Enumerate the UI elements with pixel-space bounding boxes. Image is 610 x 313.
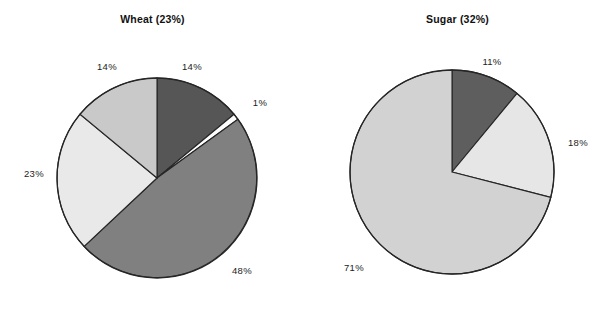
pie-label-sugar-2: 18% (568, 138, 588, 148)
pie-label-sugar-3: 71% (344, 263, 364, 273)
pie-label-wheat-2: 1% (253, 98, 267, 108)
pie-label-wheat-5: 14% (97, 62, 117, 72)
pie-chart-wheat (0, 0, 305, 313)
pie-label-wheat-4: 23% (24, 169, 44, 179)
pie-label-wheat-3: 48% (232, 266, 252, 276)
figure-canvas: Wheat (23%) 14% 1% 48% 23% 14% Sugar (32… (0, 0, 610, 313)
chart-panel-sugar: Sugar (32%) 11% 18% 71% (305, 0, 610, 313)
pie-label-sugar-1: 11% (482, 57, 501, 67)
pie-label-wheat-1: 14% (182, 62, 202, 72)
chart-panel-wheat: Wheat (23%) 14% 1% 48% 23% 14% (0, 0, 305, 313)
